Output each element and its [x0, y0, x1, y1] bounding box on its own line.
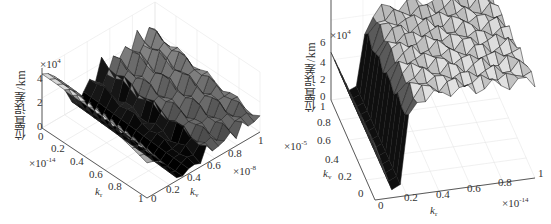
- right-kv-tick: 1: [320, 101, 326, 112]
- left-surface-canvas: [0, 0, 280, 224]
- left-kr-tick: 0.2: [51, 143, 65, 154]
- right-kr-multiplier: ×10-14: [502, 195, 529, 209]
- left-kr-tick: 0.8: [108, 181, 122, 192]
- left-kv-tick: 0: [151, 193, 157, 204]
- right-kr-tick: 0.6: [467, 183, 481, 194]
- left-kv-tick: 1: [258, 135, 264, 146]
- right-kr-tick: 0: [378, 200, 384, 211]
- right-kv-multiplier: ×10-5: [284, 138, 307, 152]
- right-kv-tick: 0: [358, 188, 364, 199]
- left-kv-tick: 0.2: [166, 184, 180, 195]
- left-kr-multiplier: ×10-14: [29, 155, 56, 169]
- right-z-tick-2: 2: [320, 74, 326, 85]
- right-kv-tick: 0.8: [317, 117, 331, 128]
- left-kv-tick: 0.4: [187, 172, 201, 183]
- left-z-multiplier: ×104: [40, 56, 61, 70]
- right-kr-tick: 1: [538, 168, 544, 179]
- right-kv-tick: 0.4: [325, 154, 339, 165]
- left-kr-tick: 0.6: [89, 169, 103, 180]
- left-kr-axis-label: kr: [95, 186, 102, 201]
- left-kv-multiplier: ×10-8: [233, 163, 256, 177]
- right-z-axis-label: 位置误差/km: [302, 42, 319, 112]
- right-kv-tick: 0.6: [317, 135, 331, 146]
- right-surface-plot: ×104 6 4 2 0 位置误差/km 1 0.8 0.6 0.4 0.2 0…: [280, 0, 551, 224]
- right-kr-tick: 0.4: [436, 189, 450, 200]
- right-z-multiplier: ×104: [330, 27, 351, 41]
- right-kr-tick: 0.8: [498, 177, 512, 188]
- right-z-tick-4: 4: [320, 57, 326, 68]
- right-kr-axis-label: kr: [430, 205, 437, 220]
- left-kv-axis-label: kv: [190, 186, 198, 201]
- left-kr-tick: 1: [138, 193, 144, 204]
- left-z-tick-4: 4: [37, 73, 43, 84]
- left-z-tick-2: 2: [37, 97, 43, 108]
- left-kr-tick: 0: [38, 131, 44, 142]
- right-kv-axis-label: kv: [323, 168, 331, 183]
- right-z-tick-6: 6: [320, 37, 326, 48]
- left-kv-tick: 0.6: [207, 160, 221, 171]
- left-z-axis-label: 位置误差/km: [12, 70, 29, 140]
- right-kv-tick: 0.2: [338, 171, 352, 182]
- right-kr-tick: 0.2: [404, 192, 418, 203]
- left-kv-tick: 0.8: [228, 148, 242, 159]
- left-kr-tick: 0.4: [70, 156, 84, 167]
- left-surface-plot: ×104 4 2 0 位置误差/km 0 0.2 0.4 0.6 0.8 1 ×…: [0, 0, 280, 224]
